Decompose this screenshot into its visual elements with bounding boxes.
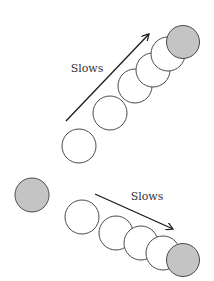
bottom-slows-label: Slows (131, 190, 164, 203)
top-path-group (62, 26, 200, 164)
top-slows-label: Slows (71, 62, 104, 75)
ball-filled (167, 244, 200, 277)
ball-trace (93, 96, 127, 130)
motion-diagram: Slows Slows (0, 0, 214, 281)
bottom-path-group (15, 178, 200, 277)
start-ball-filled (15, 178, 49, 212)
ball-trace (65, 200, 99, 234)
ball-trace (62, 129, 96, 163)
ball-filled (167, 26, 200, 59)
